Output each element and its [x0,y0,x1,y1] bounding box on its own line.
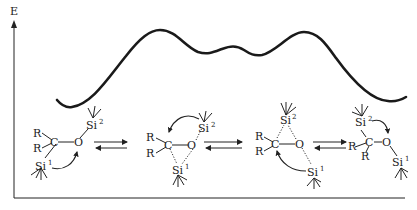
equilibrium-arrow [94,142,127,148]
atom-si-index: 2 [99,118,103,126]
atom-si: Si [307,166,319,179]
atom-si-index: 1 [48,159,52,167]
energy-profile-curve [57,30,406,107]
axes: E [10,5,405,198]
atom-r: R [146,131,155,144]
atom-r: R [33,142,42,155]
atom-si-index: 2 [211,121,215,129]
structure-intermediate-1: R R C O Si 2 Si 1 [146,111,215,187]
y-axis-label: E [10,5,18,18]
atom-r: R [146,147,155,160]
atom-si-index: 1 [185,163,189,171]
atom-si: Si [172,164,184,177]
energy-diagram: E R R C O Si 2 Si 1 [0,0,417,210]
equilibrium-arrow [313,142,346,148]
atom-o: O [187,139,196,152]
atom-si-index: 1 [320,165,324,173]
atom-si-index: 2 [368,115,372,123]
atom-c: C [50,136,58,149]
atom-o: O [382,136,391,149]
atom-o: O [295,138,304,151]
atom-c: C [164,139,172,152]
structure-reactant: R R C O Si 2 Si 1 [31,106,103,180]
atom-si: Si [392,156,404,169]
atom-si: Si [198,122,210,135]
atom-si: Si [355,116,367,129]
atom-r: R [348,140,357,153]
atom-r: R [255,145,264,158]
atom-r: R [33,127,42,140]
y-axis-arrow-icon [11,20,17,28]
atom-si-index: 2 [292,113,296,121]
atom-si: Si [86,119,98,132]
atom-r: R [361,150,370,163]
atom-r: R [255,130,264,143]
atom-o: O [74,136,83,149]
atom-c: C [365,136,373,149]
atom-si-index: 1 [405,155,409,163]
structure-intermediate-2: R R C O Si 2 Si 1 [255,102,324,189]
equilibrium-arrow [204,142,242,148]
structure-product: R R C O Si 2 Si 1 [348,104,409,180]
atom-si: Si [35,160,47,173]
atom-si: Si [280,114,292,127]
atom-c: C [271,138,279,151]
